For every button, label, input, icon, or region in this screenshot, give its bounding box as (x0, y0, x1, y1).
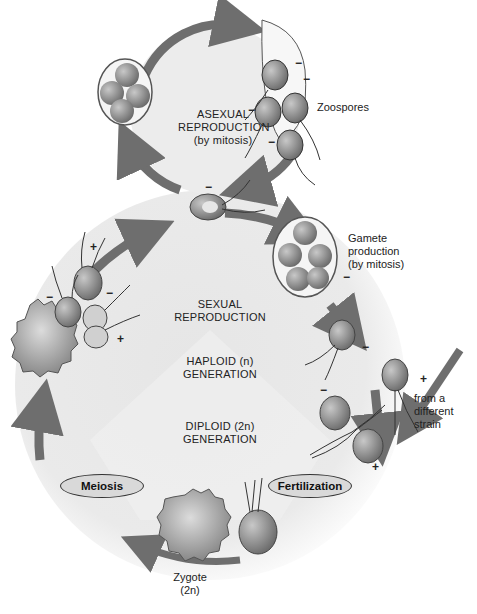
plus-sign: + (117, 332, 124, 346)
gamete-line1: Gamete (348, 232, 404, 245)
zygote-label: Zygote (2n) (165, 571, 215, 597)
sexual-title-line1: SEXUAL (170, 298, 270, 311)
sexual-title: SEXUAL REPRODUCTION (170, 298, 270, 324)
plus-sign: + (420, 372, 427, 386)
minus-sign: − (205, 180, 212, 194)
strain-line2: different (414, 405, 454, 418)
minus-sign: − (248, 103, 255, 117)
plus-sign: + (90, 240, 97, 254)
sexual-title-line2: REPRODUCTION (170, 311, 270, 324)
minus-sign: − (362, 340, 369, 354)
gamete-line2: production (348, 245, 404, 258)
zoospores-label: Zoospores (317, 101, 369, 114)
minus-sign: − (303, 72, 310, 86)
zygote-line2: (2n) (165, 584, 215, 597)
haploid-line2: GENERATION (170, 368, 270, 381)
haploid-generation-label: HAPLOID (n) GENERATION (170, 355, 270, 381)
haploid-line1: HAPLOID (n) (170, 355, 270, 368)
plus-sign: + (372, 460, 379, 474)
strain-line3: strain (414, 418, 454, 431)
diploid-line2: GENERATION (170, 433, 270, 446)
diploid-generation-label: DIPLOID (2n) GENERATION (170, 420, 270, 446)
minus-sign: − (343, 270, 350, 284)
minus-sign: − (295, 56, 302, 70)
strain-line1: from a (414, 392, 454, 405)
asexual-title-line2: REPRODUCTION (178, 121, 268, 134)
diploid-line1: DIPLOID (2n) (170, 420, 270, 433)
gamete-production-label: Gamete production (by mitosis) (348, 232, 404, 271)
minus-sign: − (268, 135, 275, 149)
different-strain-label: from a different strain (414, 392, 454, 431)
zygote-line1: Zygote (165, 571, 215, 584)
sporangium-cell (98, 59, 152, 125)
gamete-cluster (273, 217, 337, 297)
gamete-line3: (by mitosis) (348, 258, 404, 271)
asexual-title-line3: (by mitosis) (178, 134, 268, 147)
minus-sign: − (46, 290, 53, 304)
fertilization-label: Fertilization (268, 474, 352, 498)
minus-sign: − (320, 383, 327, 397)
meiosis-label: Meiosis (60, 474, 144, 498)
minus-sign: − (106, 286, 113, 300)
